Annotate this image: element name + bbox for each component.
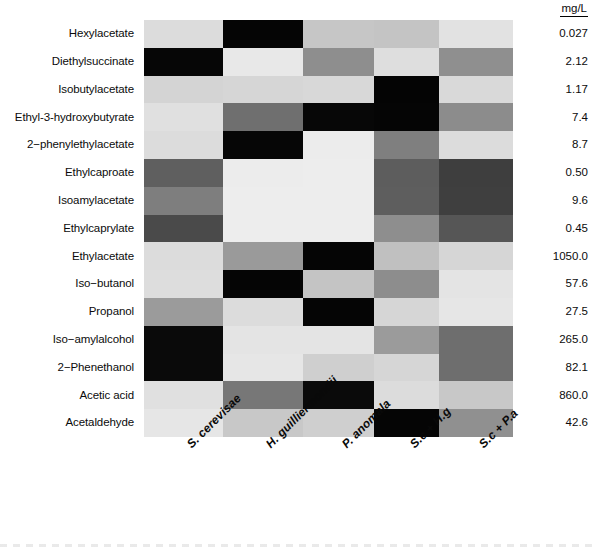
heatmap-cell <box>223 187 303 215</box>
value-cell: 0.027 <box>513 20 596 48</box>
heatmap-figure: mg/L HexylacetateDiethylsuccinateIsobuty… <box>0 0 596 547</box>
heatmap-cell <box>374 187 439 215</box>
value-column: 0.0272.121.177.48.70.509.60.451050.057.6… <box>513 20 596 437</box>
column-label-slot: P. anomala <box>339 437 340 547</box>
units-header: mg/L <box>513 2 596 19</box>
heatmap-cell <box>223 103 303 131</box>
heatmap-cell <box>223 326 303 354</box>
value-cell: 57.6 <box>513 270 596 298</box>
heatmap-cell <box>144 381 223 409</box>
value-cell: 42.6 <box>513 409 596 437</box>
heatmap-cell <box>223 48 303 76</box>
heatmap-cell <box>303 354 374 382</box>
heatmap-cell <box>303 298 374 326</box>
heatmap-cell <box>144 103 223 131</box>
heatmap-cell <box>223 159 303 187</box>
row-label: Propanol <box>0 298 140 326</box>
row-label: Acetic acid <box>0 381 140 409</box>
value-cell: 9.6 <box>513 187 596 215</box>
heatmap-cell <box>303 76 374 104</box>
heatmap-cell <box>223 242 303 270</box>
row-label: Ethylacetate <box>0 242 140 270</box>
heatmap-cell <box>144 298 223 326</box>
heatmap-cell <box>303 103 374 131</box>
value-cell: 2.12 <box>513 48 596 76</box>
heatmap-cell <box>374 103 439 131</box>
heatmap-cell <box>223 298 303 326</box>
units-label: mg/L <box>560 2 588 17</box>
value-cell: 1.17 <box>513 76 596 104</box>
heatmap-cell <box>374 48 439 76</box>
heatmap-cell <box>439 48 513 76</box>
column-label-slot: S.c + H.g <box>407 437 408 547</box>
heatmap-cell <box>439 131 513 159</box>
heatmap-cell <box>144 354 223 382</box>
row-label: Ethylcaprylate <box>0 215 140 243</box>
heatmap-cell <box>144 215 223 243</box>
heatmap-cell <box>144 242 223 270</box>
row-label: Ethylcaproate <box>0 159 140 187</box>
heatmap-cell <box>144 187 223 215</box>
heatmap-cell <box>439 270 513 298</box>
value-cell: 7.4 <box>513 103 596 131</box>
heatmap-cell <box>223 76 303 104</box>
heatmap-cell <box>439 354 513 382</box>
value-cell: 82.1 <box>513 354 596 382</box>
heatmap-cell <box>303 187 374 215</box>
heatmap-cell <box>374 20 439 48</box>
heatmap-cell <box>439 298 513 326</box>
column-label-slot: S.c + P.a <box>476 437 477 547</box>
heatmap-cell <box>144 48 223 76</box>
heatmap-cell <box>374 270 439 298</box>
heatmap-cell <box>303 48 374 76</box>
value-cell: 265.0 <box>513 326 596 354</box>
heatmap-cell <box>374 131 439 159</box>
heatmap-cell <box>374 298 439 326</box>
column-label-slot: H. guilliermondii <box>263 437 264 547</box>
row-label: 2−phenylethylacetate <box>0 131 140 159</box>
heatmap-cell <box>374 159 439 187</box>
heatmap-cell <box>374 326 439 354</box>
row-label: Acetaldehyde <box>0 409 140 437</box>
heatmap-cell <box>144 159 223 187</box>
heatmap-cell <box>439 76 513 104</box>
heatmap-cell <box>303 20 374 48</box>
row-label: Iso−amylalcohol <box>0 326 140 354</box>
heatmap-cell <box>144 20 223 48</box>
row-label: Diethylsuccinate <box>0 48 140 76</box>
row-label-axis: HexylacetateDiethylsuccinateIsobutylacet… <box>0 20 140 437</box>
heatmap-cell <box>223 270 303 298</box>
value-cell: 1050.0 <box>513 242 596 270</box>
heatmap-cell <box>303 270 374 298</box>
heatmap-cell <box>303 159 374 187</box>
heatmap-cell <box>439 381 513 409</box>
value-cell: 0.45 <box>513 215 596 243</box>
value-cell: 0.50 <box>513 159 596 187</box>
heatmap-cell <box>439 326 513 354</box>
heatmap-cell <box>303 131 374 159</box>
heatmap-cell <box>223 215 303 243</box>
heatmap-cell <box>374 242 439 270</box>
row-label: Hexylacetate <box>0 20 140 48</box>
row-label: Isoamylacetate <box>0 187 140 215</box>
heatmap-cell <box>223 354 303 382</box>
heatmap-cell <box>439 159 513 187</box>
heatmap-cell <box>439 187 513 215</box>
heatmap-cell <box>374 354 439 382</box>
heatmap-cell <box>303 215 374 243</box>
heatmap-cell <box>144 76 223 104</box>
heatmap-cell <box>374 215 439 243</box>
heatmap-cell <box>439 215 513 243</box>
column-label-slot: S. cerevisae <box>184 437 185 547</box>
heatmap-cell <box>439 103 513 131</box>
heatmap-cell <box>223 20 303 48</box>
value-cell: 8.7 <box>513 131 596 159</box>
heatmap-cell <box>303 242 374 270</box>
row-label: Isobutylacetate <box>0 76 140 104</box>
column-label-axis: S. cerevisaeH. guilliermondiiP. anomalaS… <box>144 437 513 547</box>
heatmap-cell <box>144 270 223 298</box>
heatmap-cell <box>374 76 439 104</box>
heatmap-cell <box>223 131 303 159</box>
row-label: 2−Phenethanol <box>0 354 140 382</box>
row-label: Ethyl-3-hydroxybutyrate <box>0 103 140 131</box>
